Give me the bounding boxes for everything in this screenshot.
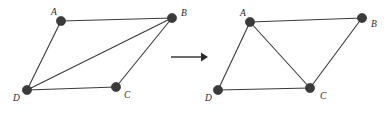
- graph-vertex-d: [22, 85, 31, 94]
- graph-vertex-d: [213, 85, 222, 94]
- transformation-arrow: [171, 53, 208, 62]
- graph-edge-a-d: [27, 21, 61, 90]
- vertex-label-d: D: [12, 93, 20, 103]
- graph-vertex-b: [357, 13, 366, 22]
- graph-edge-d-c: [218, 88, 310, 90]
- after-graph-edges: [218, 18, 362, 90]
- before-graph-edges: [27, 18, 172, 90]
- graph-edge-a-c: [250, 22, 310, 88]
- graph-edge-a-d: [218, 22, 250, 90]
- figure-canvas: ABCD ABCD: [0, 0, 392, 113]
- vertex-label-c: C: [124, 90, 131, 100]
- arrow-head-icon: [201, 53, 208, 62]
- vertex-label-a: A: [239, 8, 246, 18]
- vertex-label-c: C: [320, 91, 327, 101]
- before-graph: ABCD: [12, 7, 187, 103]
- graph-edge-a-b: [250, 18, 362, 22]
- vertex-label-a: A: [50, 7, 57, 17]
- graph-edge-d-b: [27, 18, 172, 90]
- vertex-label-b: B: [181, 8, 187, 18]
- graph-edge-a-b: [61, 18, 172, 21]
- graph-edge-c-b: [310, 18, 362, 88]
- after-graph-nodes: [213, 13, 366, 94]
- flip-transformation-figure: ABCD ABCD: [0, 0, 392, 113]
- graph-edge-d-c: [27, 87, 116, 90]
- vertex-label-b: B: [371, 19, 377, 29]
- graph-vertex-a: [245, 17, 254, 26]
- graph-vertex-a: [56, 16, 65, 25]
- graph-vertex-b: [167, 13, 176, 22]
- after-graph: ABCD: [204, 8, 377, 103]
- graph-edge-c-b: [116, 18, 172, 87]
- before-graph-labels: ABCD: [12, 7, 187, 103]
- graph-vertex-c: [305, 83, 314, 92]
- graph-vertex-c: [111, 82, 120, 91]
- vertex-label-d: D: [204, 93, 212, 103]
